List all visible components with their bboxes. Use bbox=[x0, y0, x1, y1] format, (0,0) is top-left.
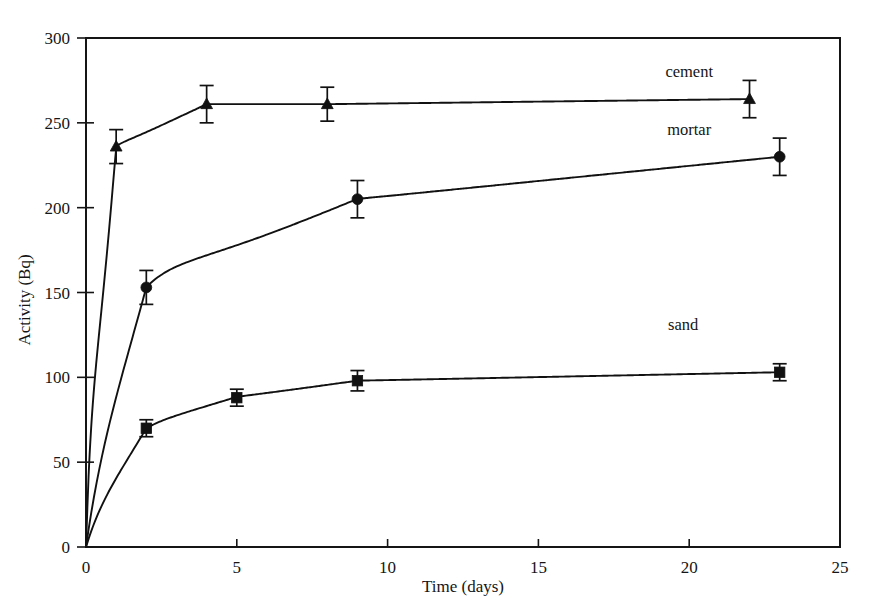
chart-background bbox=[0, 0, 877, 610]
y-tick-label: 250 bbox=[45, 114, 71, 133]
series-label-mortar: mortar bbox=[667, 120, 711, 139]
y-tick-label: 0 bbox=[62, 538, 71, 557]
marker-square-sand bbox=[232, 392, 242, 402]
marker-square-sand bbox=[352, 376, 362, 386]
marker-circle-mortar bbox=[352, 194, 363, 205]
x-tick-label: 25 bbox=[832, 558, 849, 577]
x-axis-title: Time (days) bbox=[422, 577, 504, 596]
x-tick-label: 5 bbox=[233, 558, 242, 577]
marker-circle-mortar bbox=[774, 151, 785, 162]
marker-square-sand bbox=[141, 423, 151, 433]
y-tick-label: 300 bbox=[45, 29, 71, 48]
y-tick-label: 50 bbox=[53, 453, 70, 472]
y-tick-label: 200 bbox=[45, 199, 71, 218]
y-axis-title: Activity (Bq) bbox=[15, 254, 34, 345]
activity-vs-time-chart: 0510152025 050100150200250300 cementmort… bbox=[0, 0, 877, 610]
y-tick-label: 150 bbox=[45, 284, 71, 303]
x-tick-label: 0 bbox=[82, 558, 91, 577]
y-tick-label: 100 bbox=[45, 368, 71, 387]
series-label-sand: sand bbox=[668, 315, 699, 334]
series-label-cement: cement bbox=[665, 62, 713, 81]
x-tick-label: 15 bbox=[530, 558, 547, 577]
marker-square-sand bbox=[774, 367, 784, 377]
x-tick-label: 20 bbox=[681, 558, 698, 577]
x-tick-label: 10 bbox=[379, 558, 396, 577]
marker-circle-mortar bbox=[141, 282, 152, 293]
figure-container: 0510152025 050100150200250300 cementmort… bbox=[0, 0, 877, 610]
